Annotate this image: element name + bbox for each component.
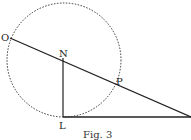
label-L: L	[59, 120, 66, 131]
figure-caption: Fig. 3	[83, 129, 112, 140]
label-N: N	[59, 48, 68, 59]
geometry-figure: O N P L Fig. 3	[0, 0, 191, 140]
dashed-circle	[7, 3, 121, 117]
line-OP-extended	[10, 38, 191, 117]
label-P: P	[116, 76, 123, 87]
label-O: O	[1, 32, 9, 43]
